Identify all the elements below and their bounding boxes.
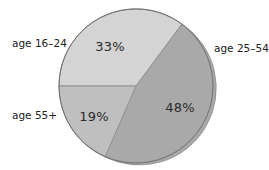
slice-label-age-55-plus-percent: 19% — [79, 109, 109, 124]
pie-chart: 33% 48% 19% age 16–24 age 25–54 age 55+ — [0, 0, 269, 170]
category-label-age-25-54: age 25–54 — [214, 42, 269, 54]
category-label-age-16-24: age 16–24 — [12, 37, 67, 49]
category-label-age-55-plus: age 55+ — [12, 109, 57, 121]
slice-label-age-16-24-percent: 33% — [95, 39, 125, 54]
pie-graphic — [0, 0, 269, 170]
slice-label-age-25-54-percent: 48% — [165, 100, 195, 115]
